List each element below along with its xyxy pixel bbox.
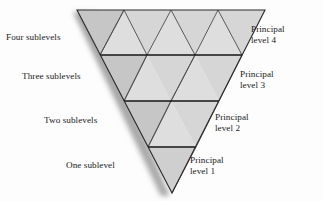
- label-principal-level-1-line2: level 1: [190, 166, 224, 177]
- label-three-sublevels-text: Three sublevels: [22, 71, 81, 82]
- label-principal-level-2: Principal level 2: [215, 112, 249, 135]
- label-principal-level-3: Principal level 3: [240, 69, 274, 92]
- label-principal-level-1: Principal level 1: [190, 155, 224, 178]
- label-four-sublevels: Four sublevels: [6, 32, 61, 43]
- label-principal-level-2-line2: level 2: [215, 123, 249, 134]
- label-two-sublevels-text: Two sublevels: [44, 115, 97, 126]
- label-four-sublevels-text: Four sublevels: [6, 32, 61, 43]
- label-principal-level-3-line2: level 3: [240, 80, 274, 91]
- label-principal-level-1-line1: Principal: [190, 155, 224, 166]
- label-principal-level-3-line1: Principal: [240, 69, 274, 80]
- label-principal-level-4: Principal level 4: [251, 24, 285, 47]
- label-principal-level-4-line1: Principal: [251, 24, 285, 35]
- label-two-sublevels: Two sublevels: [44, 115, 97, 126]
- label-principal-level-2-line1: Principal: [215, 112, 249, 123]
- label-one-sublevel-text: One sublevel: [66, 160, 115, 171]
- level-4-band: [77, 10, 265, 55]
- label-one-sublevel: One sublevel: [66, 160, 115, 171]
- energy-level-figure: Four sublevels Three sublevels Two suble…: [0, 0, 323, 201]
- label-principal-level-4-line2: level 4: [251, 35, 285, 46]
- level-3-band: [100, 55, 242, 101]
- label-three-sublevels: Three sublevels: [22, 71, 81, 82]
